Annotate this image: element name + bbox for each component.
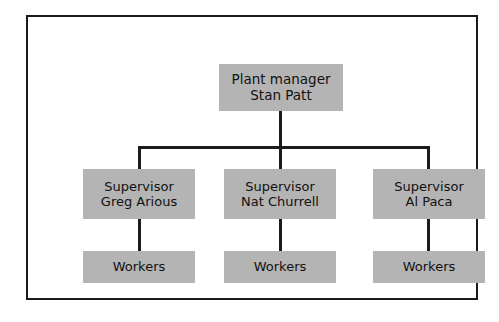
node-title: Supervisor (104, 179, 173, 194)
node-person-name: Stan Patt (250, 88, 311, 104)
node-workers-3: Workers (373, 251, 485, 283)
node-title: Plant manager (232, 72, 331, 88)
connector-bus-to-supervisor-3 (427, 146, 430, 171)
node-person-name: Nat Churrell (241, 194, 319, 209)
node-plant-manager: Plant manager Stan Patt (219, 64, 343, 111)
node-supervisor-1: Supervisor Greg Arious (83, 169, 195, 219)
connector-supervisor-3-to-workers (427, 218, 430, 253)
node-person-name: Greg Arious (101, 194, 177, 209)
connector-bus-to-supervisor-2 (279, 146, 282, 171)
node-workers-2: Workers (224, 251, 336, 283)
node-label: Workers (113, 259, 166, 274)
node-title: Supervisor (394, 179, 463, 194)
node-label: Workers (403, 259, 456, 274)
connector-bus-to-supervisor-1 (138, 146, 141, 171)
connector-supervisor-2-to-workers (279, 218, 282, 253)
node-supervisor-2: Supervisor Nat Churrell (224, 169, 336, 219)
connector-supervisor-1-to-workers (138, 218, 141, 253)
org-chart-diagram: Plant manager Stan Patt Supervisor Greg … (0, 0, 499, 322)
node-workers-1: Workers (83, 251, 195, 283)
diagram-frame: Plant manager Stan Patt Supervisor Greg … (26, 15, 478, 300)
node-supervisor-3: Supervisor Al Paca (373, 169, 485, 219)
node-title: Supervisor (245, 179, 314, 194)
node-person-name: Al Paca (406, 194, 453, 209)
connector-manager-to-bus (279, 111, 282, 149)
node-label: Workers (254, 259, 307, 274)
connector-horizontal-bus (138, 146, 430, 149)
